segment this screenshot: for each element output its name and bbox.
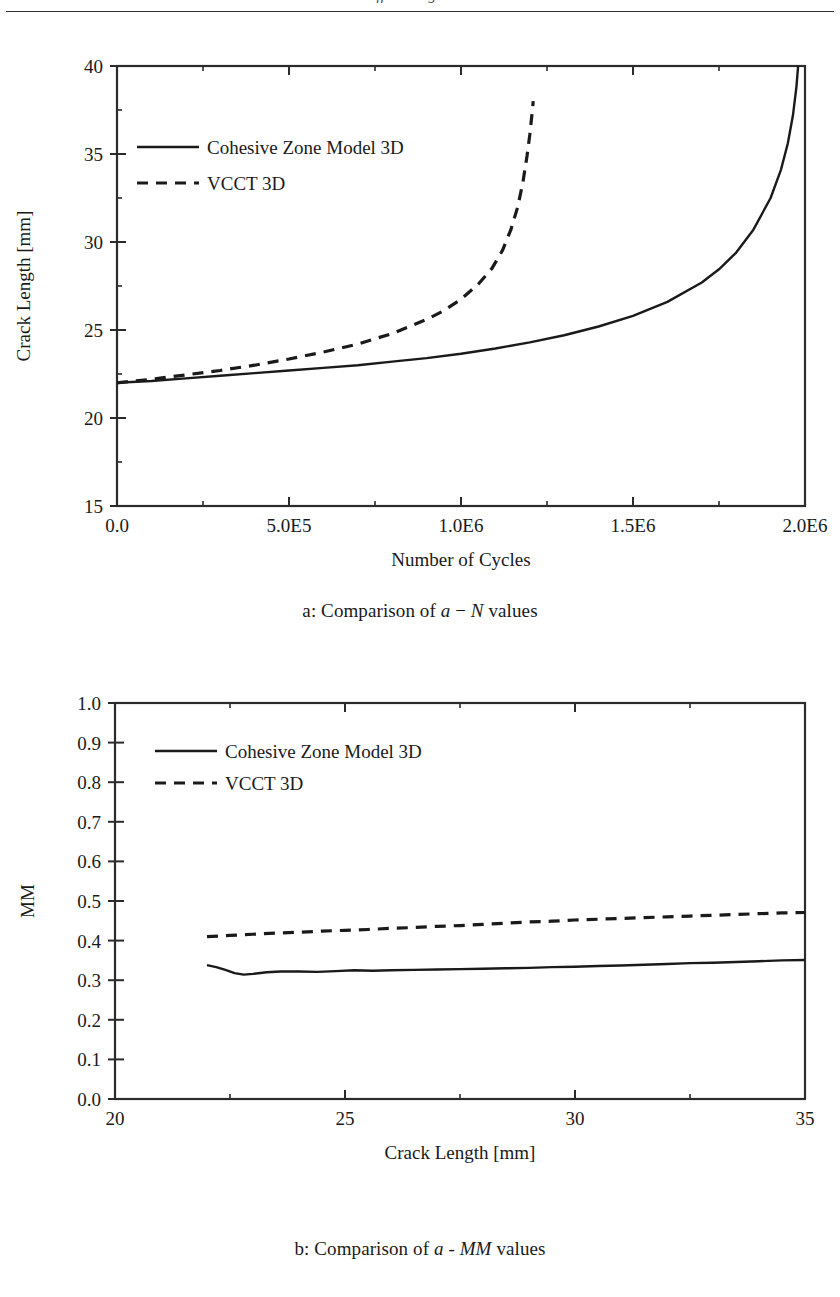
chart-b-mm-vs-crack-length: 202530350.00.10.20.30.40.50.60.70.80.91.… [0,672,840,1232]
subcaption-a-var2: N [471,600,484,621]
y-tick-label: 0.4 [77,931,101,952]
subcaption-b: b: Comparison of a - MM values [0,1238,840,1260]
series-line-1 [207,960,805,975]
legend-label-1: Cohesive Zone Model 3D [207,137,404,158]
subcaption-a-operator: − [450,600,471,621]
legend-label-2: VCCT 3D [207,173,285,194]
subcaption-b-var1: a [434,1238,444,1259]
y-tick-label: 0.5 [77,891,101,912]
y-tick-label: 0.3 [77,970,101,991]
y-tick-label: 15 [84,496,103,517]
y-tick-label: 35 [84,144,103,165]
y-tick-label: 25 [84,320,103,341]
y-tick-label: 0.2 [77,1010,101,1031]
y-tick-label: 1.0 [77,693,101,714]
y-tick-label: 30 [84,232,103,253]
figure-a-block: 0.05.0E51.0E61.5E62.0E6152025303540Numbe… [0,34,840,622]
y-tick-label: 0.8 [77,772,101,793]
x-tick-label: 1.0E6 [439,515,484,536]
x-axis-title: Number of Cycles [391,549,530,570]
y-tick-label: 0.7 [77,812,101,833]
y-axis-title: Crack Length [mm] [13,211,34,362]
series-line-1 [117,66,798,383]
x-tick-label: 2.0E6 [783,515,828,536]
subcaption-a-prefix: a: Comparison of [302,600,440,621]
y-tick-label: 0.0 [77,1089,101,1110]
subcaption-b-suffix: values [492,1238,546,1259]
plot-frame [117,66,805,506]
x-axis-title: Crack Length [mm] [385,1142,536,1163]
subcaption-a-var1: a [441,600,451,621]
subcaption-b-prefix: b: Comparison of [294,1238,433,1259]
x-tick-label: 20 [106,1108,125,1129]
y-tick-label: 0.9 [77,733,101,754]
plot-frame [115,703,805,1099]
legend-label-2: VCCT 3D [225,773,303,794]
figure-b-block: 202530350.00.10.20.30.40.50.60.70.80.91.… [0,672,840,1260]
header-divider-rule [6,11,834,12]
y-tick-label: 40 [84,56,103,77]
figure-page: cut-off running head text 0.05.0E51.0E61… [0,0,840,1297]
x-tick-label: 35 [796,1108,815,1129]
y-axis-title: MM [17,884,38,918]
subcaption-b-operator: - [444,1238,460,1259]
x-tick-label: 25 [336,1108,355,1129]
subcaption-b-var2: MM [460,1238,492,1259]
subcaption-a-suffix: values [484,600,538,621]
subcaption-a: a: Comparison of a − N values [0,600,840,622]
series-line-2 [207,912,805,936]
y-tick-label: 0.6 [77,851,101,872]
x-tick-label: 0.0 [105,515,129,536]
chart-a-crack-length-vs-cycles: 0.05.0E51.0E61.5E62.0E6152025303540Numbe… [0,34,840,594]
x-tick-label: 5.0E5 [267,515,312,536]
y-tick-label: 0.1 [77,1049,101,1070]
x-tick-label: 30 [566,1108,585,1129]
running-header: cut-off running head text [0,0,840,26]
running-header-text: cut-off running head text [0,0,840,4]
y-tick-label: 20 [84,408,103,429]
x-tick-label: 1.5E6 [611,515,656,536]
legend-label-1: Cohesive Zone Model 3D [225,741,422,762]
